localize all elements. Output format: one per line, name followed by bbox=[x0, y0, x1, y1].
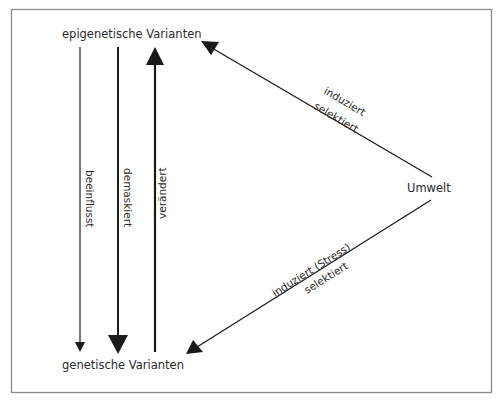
diagram-frame bbox=[12, 10, 492, 393]
edge-label-changes: verändert bbox=[156, 167, 168, 219]
node-genetic-variants: genetische Varianten bbox=[62, 358, 184, 372]
edge-label-unmasks: demaskiert bbox=[122, 168, 134, 227]
edge-label-influences: beeinflusst bbox=[84, 170, 96, 227]
node-environment: Umwelt bbox=[407, 181, 451, 195]
diagram-canvas: epigenetische Varianten genetische Varia… bbox=[0, 0, 500, 401]
node-epigenetic-variants: epigenetische Varianten bbox=[62, 27, 202, 41]
